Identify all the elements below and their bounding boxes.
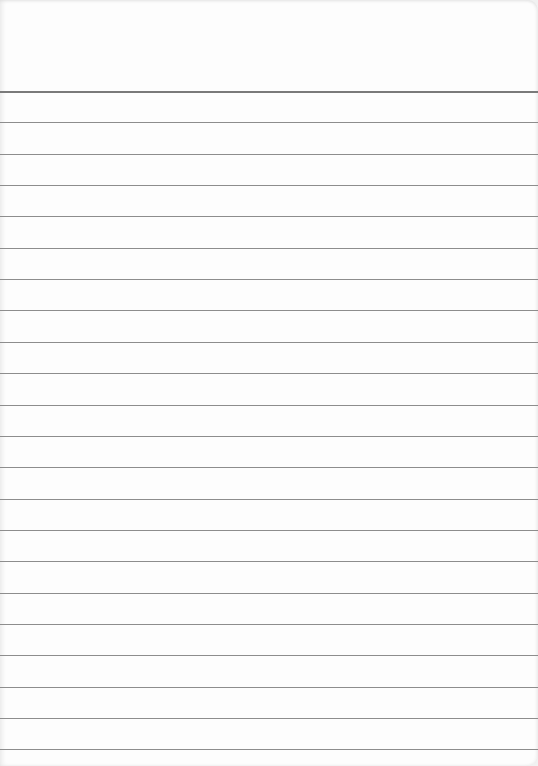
ruled-line [0,499,538,500]
ruled-line [0,373,538,374]
ruled-line [0,624,538,625]
ruled-line [0,593,538,594]
ruled-line [0,749,538,750]
ruled-line [0,154,538,155]
ruled-line [0,342,538,343]
ruled-line [0,248,538,249]
lined-paper-sheet [0,0,538,766]
ruled-line [0,561,538,562]
ruled-line [0,467,538,468]
ruled-line [0,436,538,437]
ruled-line [0,122,538,123]
ruled-line [0,279,538,280]
ruled-line [0,530,538,531]
ruled-line [0,216,538,217]
ruled-line [0,718,538,719]
ruled-line [0,655,538,656]
ruled-line [0,91,538,93]
ruled-line [0,310,538,311]
ruled-line [0,687,538,688]
ruled-line [0,185,538,186]
ruled-line [0,405,538,406]
